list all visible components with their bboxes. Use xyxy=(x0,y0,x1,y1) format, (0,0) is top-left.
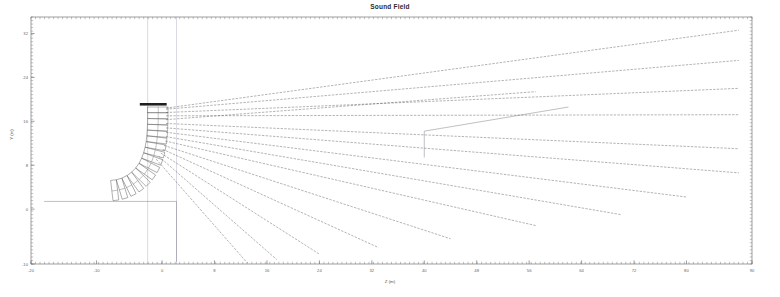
array-cabinet xyxy=(147,124,168,131)
x-tick-label: 64 xyxy=(579,268,584,273)
array-cabinet xyxy=(148,113,168,119)
sound-ray xyxy=(166,115,739,116)
y-tick-label: 16 xyxy=(23,119,28,124)
axis-tick-labels-group: -20-100816243240485664728090-1008162432 xyxy=(22,31,755,273)
array-cabinet xyxy=(111,180,119,201)
x-tick-label: 16 xyxy=(265,268,270,273)
sound-ray xyxy=(166,92,536,120)
array-cabinet xyxy=(148,107,168,113)
balcony-riser xyxy=(424,107,568,157)
x-tick-label: 72 xyxy=(632,268,637,273)
x-tick-label: 40 xyxy=(422,268,427,273)
axis-frame-group xyxy=(31,17,752,264)
x-tick-label: 24 xyxy=(317,268,322,273)
guide-lines-group xyxy=(148,17,177,264)
array-cabinet xyxy=(127,172,144,192)
sound-ray xyxy=(163,149,379,247)
y-tick-label: 0 xyxy=(26,207,29,212)
x-tick-label: -10 xyxy=(94,268,101,273)
x-tick-label: 56 xyxy=(527,268,532,273)
sound-ray xyxy=(166,128,739,173)
sound-ray xyxy=(166,132,686,197)
stage-outline xyxy=(44,201,176,261)
x-tick-label: 0 xyxy=(161,268,164,273)
sound-ray xyxy=(164,145,450,238)
x-tick-label: 80 xyxy=(684,268,689,273)
plot-canvas: -20-100816243240485664728090-1008162432 xyxy=(0,0,780,297)
x-tick-label: 48 xyxy=(474,268,479,273)
sound-field-figure: Sound Field Y (m) Z (m) -20-100816243240… xyxy=(0,0,780,297)
sound-ray xyxy=(166,123,739,148)
array-cabinet xyxy=(116,178,127,199)
array-cabinet xyxy=(147,119,167,125)
y-tick-label: 32 xyxy=(23,31,28,36)
sound-ray xyxy=(161,153,320,254)
sound-ray xyxy=(166,30,739,108)
array-cabinet xyxy=(136,163,156,179)
sound-ray xyxy=(166,137,621,215)
line-array-group xyxy=(111,104,168,200)
axis-ticks-group xyxy=(31,17,752,264)
x-tick-label: 32 xyxy=(370,268,375,273)
y-tick-label: -10 xyxy=(22,262,29,267)
sound-ray xyxy=(166,88,739,112)
venue-structure-group xyxy=(44,107,568,262)
x-tick-label: 90 xyxy=(750,268,755,273)
y-tick-label: 8 xyxy=(26,163,29,168)
x-tick-label: -20 xyxy=(28,268,35,273)
sound-ray xyxy=(165,141,535,226)
x-tick-label: 8 xyxy=(213,268,216,273)
sound-ray xyxy=(166,60,739,109)
sound-rays-group xyxy=(156,30,739,263)
sound-ray xyxy=(156,159,247,263)
array-cabinet xyxy=(142,153,163,165)
y-tick-label: 24 xyxy=(23,75,28,80)
